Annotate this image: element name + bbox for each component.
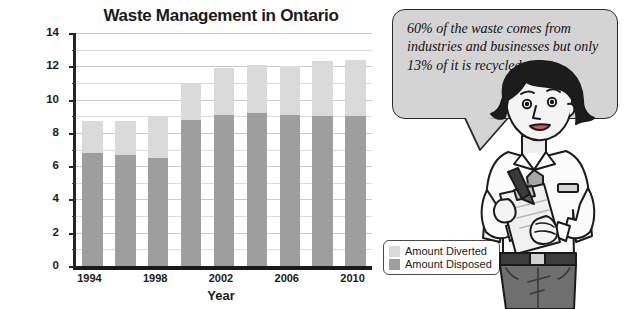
bar-segment-disposed: [181, 120, 201, 266]
bar-2008: [312, 61, 332, 266]
y-tick-minor: [72, 50, 76, 51]
x-axis-title: Year: [73, 288, 369, 303]
bar-segment-diverted: [181, 83, 201, 120]
y-tick-minor: [72, 116, 76, 117]
y-tick-minor: [72, 83, 76, 84]
bar-segment-diverted: [280, 66, 300, 114]
y-tick-major: [69, 233, 76, 235]
y-tick-major: [69, 266, 76, 268]
x-tick-label: 2006: [267, 272, 307, 284]
chart-title: Waste Management in Ontario: [73, 6, 369, 26]
bar-segment-disposed: [214, 115, 234, 266]
y-tick-minor: [72, 150, 76, 151]
legend-swatch-disposed: [389, 259, 400, 270]
bar-segment-disposed: [247, 113, 267, 266]
bar-segment-diverted: [214, 68, 234, 115]
character-illustration: [470, 60, 628, 309]
bar-2002: [214, 68, 234, 266]
y-tick-major: [69, 33, 76, 35]
bar-segment-diverted: [345, 60, 365, 117]
infographic-root: Waste Management in Ontario Amount of Wa…: [0, 0, 628, 309]
bar-2000: [181, 83, 201, 266]
y-tick-label: 0: [39, 259, 59, 271]
bar-segment-disposed: [312, 116, 332, 266]
bar-segment-diverted: [115, 121, 135, 154]
plot-area: [73, 33, 372, 270]
y-tick-major: [69, 166, 76, 168]
bar-segment-disposed: [280, 115, 300, 266]
y-tick-label: 6: [39, 159, 59, 171]
bar-segment-disposed: [148, 158, 168, 266]
y-tick-major: [69, 199, 76, 201]
bar-segment-diverted: [82, 121, 102, 153]
bar-2006: [280, 66, 300, 266]
gridline-major: [76, 33, 372, 34]
x-tick-label: 1998: [135, 272, 175, 284]
bar-segment-diverted: [247, 65, 267, 113]
gridline-minor: [76, 50, 372, 51]
y-tick-label: 10: [39, 93, 59, 105]
bar-2004: [247, 65, 267, 266]
y-tick-minor: [72, 216, 76, 217]
y-tick-major: [69, 100, 76, 102]
bar-1998: [148, 116, 168, 266]
y-tick-major: [69, 133, 76, 135]
y-tick-minor: [72, 249, 76, 250]
y-tick-label: 14: [39, 26, 59, 38]
x-tick-label: 2002: [201, 272, 241, 284]
bar-segment-disposed: [82, 153, 102, 266]
y-tick-major: [69, 66, 76, 68]
bar-1994: [82, 121, 102, 266]
bar-segment-disposed: [115, 155, 135, 267]
y-tick-label: 12: [39, 59, 59, 71]
bar-2010: [345, 60, 365, 266]
bar-1996: [115, 121, 135, 266]
legend-swatch-diverted: [389, 246, 400, 257]
bar-segment-diverted: [312, 61, 332, 116]
y-tick-minor: [72, 183, 76, 184]
x-tick-label: 2010: [333, 272, 373, 284]
bar-segment-disposed: [345, 116, 365, 266]
y-tick-label: 4: [39, 192, 59, 204]
y-tick-label: 2: [39, 226, 59, 238]
x-tick-label: 1994: [69, 272, 109, 284]
y-tick-label: 8: [39, 126, 59, 138]
bar-segment-diverted: [148, 116, 168, 158]
